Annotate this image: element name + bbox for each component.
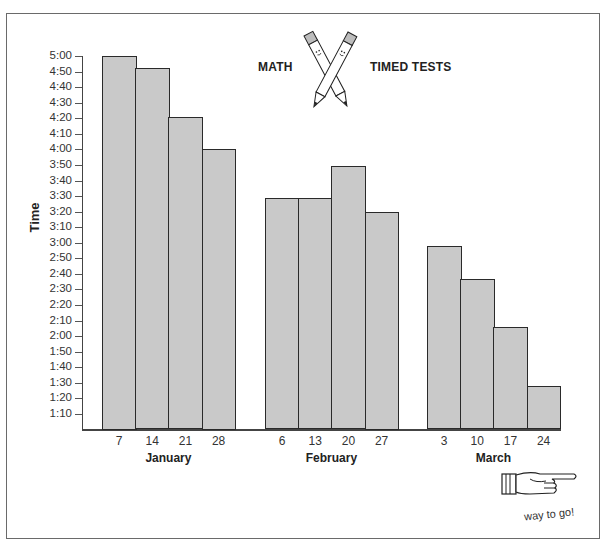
month-label-january: January bbox=[108, 451, 228, 465]
y-tick-label: 3:00 bbox=[32, 236, 72, 248]
x-tick-label: 6 bbox=[265, 434, 299, 448]
x-tick-label: 28 bbox=[202, 434, 236, 448]
bar-march-24 bbox=[527, 386, 562, 430]
bar-january-14 bbox=[135, 68, 170, 429]
x-tick-label: 17 bbox=[493, 434, 527, 448]
bar-february-20 bbox=[331, 166, 366, 429]
y-axis-line bbox=[82, 56, 83, 430]
pointing-hand-icon bbox=[500, 470, 580, 500]
y-tick-label: 2:30 bbox=[32, 282, 72, 294]
bar-march-3 bbox=[427, 246, 462, 430]
month-label-march: March bbox=[433, 451, 553, 465]
bar-february-13 bbox=[298, 198, 333, 430]
x-tick-label: 27 bbox=[365, 434, 399, 448]
y-tick-label: 3:50 bbox=[32, 158, 72, 170]
x-tick-label: 3 bbox=[427, 434, 461, 448]
bar-march-10 bbox=[460, 279, 495, 430]
crossed-pencils-icon bbox=[296, 30, 366, 110]
month-label-february: February bbox=[271, 451, 391, 465]
bar-february-6 bbox=[265, 198, 300, 430]
y-tick-label: 4:50 bbox=[32, 65, 72, 77]
y-tick-label: 1:50 bbox=[32, 345, 72, 357]
y-tick-label: 2:00 bbox=[32, 329, 72, 341]
x-tick-label: 7 bbox=[102, 434, 136, 448]
x-tick-label: 24 bbox=[527, 434, 561, 448]
x-tick-label: 13 bbox=[298, 434, 332, 448]
y-tick-label: 2:10 bbox=[32, 314, 72, 326]
y-tick-label: 2:20 bbox=[32, 298, 72, 310]
y-tick-label: 3:40 bbox=[32, 174, 72, 186]
y-tick-label: 5:00 bbox=[32, 49, 72, 61]
y-tick-label: 4:40 bbox=[32, 80, 72, 92]
y-tick-label: 2:50 bbox=[32, 251, 72, 263]
y-tick-label: 4:00 bbox=[32, 142, 72, 154]
x-tick-label: 14 bbox=[135, 434, 169, 448]
y-tick-label: 3:20 bbox=[32, 205, 72, 217]
bar-march-17 bbox=[493, 327, 528, 430]
x-tick-label: 10 bbox=[460, 434, 494, 448]
y-tick-label: 4:30 bbox=[32, 96, 72, 108]
y-tick-label: 1:30 bbox=[32, 376, 72, 388]
bar-january-7 bbox=[102, 56, 137, 430]
x-tick-label: 21 bbox=[168, 434, 202, 448]
bar-february-27 bbox=[365, 212, 400, 430]
x-tick-label: 20 bbox=[331, 434, 365, 448]
y-tick-label: 1:10 bbox=[32, 407, 72, 419]
y-tick-label: 3:30 bbox=[32, 189, 72, 201]
title-timed-tests: TIMED TESTS bbox=[370, 60, 452, 74]
y-tick-label: 1:20 bbox=[32, 391, 72, 403]
bar-january-21 bbox=[168, 117, 203, 430]
bar-january-28 bbox=[202, 149, 237, 429]
y-tick-label: 4:20 bbox=[32, 111, 72, 123]
title-math: MATH bbox=[258, 60, 293, 74]
y-tick-label: 4:10 bbox=[32, 127, 72, 139]
y-tick-label: 2:40 bbox=[32, 267, 72, 279]
y-tick-label: 1:40 bbox=[32, 360, 72, 372]
y-tick-label: 3:10 bbox=[32, 220, 72, 232]
